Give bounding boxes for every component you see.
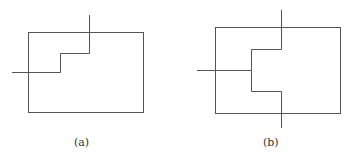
caption-a: (a) xyxy=(74,136,89,149)
figure-b-stepped-line-lower xyxy=(252,71,282,129)
figure-a-stepped-line xyxy=(12,15,90,73)
figure-b xyxy=(197,10,341,128)
figure-b-stepped-line-upper xyxy=(197,10,282,71)
caption-b: (b) xyxy=(263,136,279,149)
diagram-canvas xyxy=(0,0,349,158)
figure-a xyxy=(12,15,144,113)
